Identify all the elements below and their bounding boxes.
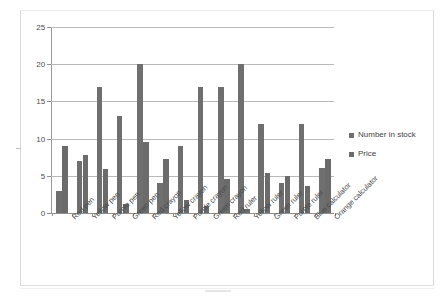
chart-legend: Number in stockPrice	[349, 131, 437, 169]
bar-group	[92, 27, 112, 213]
bar-group	[52, 27, 72, 213]
legend-item-label: Number in stock	[358, 131, 416, 139]
bar-price[interactable]	[62, 146, 68, 213]
bar-number-in-stock[interactable]	[258, 124, 264, 213]
chart-frame-bottom-tick	[205, 290, 231, 292]
bar-group	[315, 27, 335, 213]
y-axis-tick-mark	[47, 101, 51, 102]
y-axis-tick-label: 0	[41, 209, 45, 218]
bar-number-in-stock[interactable]	[97, 87, 103, 213]
bar-group	[274, 27, 294, 213]
y-axis-tick-label: 25	[36, 23, 45, 32]
y-axis-tick-mark	[47, 213, 51, 214]
y-axis-tick-label: 10	[36, 134, 45, 143]
chart-frame-top-rule	[20, 10, 434, 11]
bar-number-in-stock[interactable]	[56, 191, 62, 213]
x-axis-category-labels: Red penYellow penPurple penGreen penRed …	[51, 215, 341, 290]
bar-group	[295, 27, 315, 213]
y-axis-tick-mark	[47, 64, 51, 65]
bar-group	[153, 27, 173, 213]
chart-screenshot: 0510152025 Red penYellow penPurple penGr…	[0, 0, 441, 303]
legend-item[interactable]: Number in stock	[349, 131, 437, 139]
y-axis-tick-label: 20	[36, 60, 45, 69]
bar-series-container	[52, 27, 334, 213]
bar-group	[72, 27, 92, 213]
y-axis-tick-mark	[47, 139, 51, 140]
legend-swatch-icon	[349, 133, 354, 138]
y-axis-tick-mark	[47, 27, 51, 28]
legend-swatch-icon	[349, 152, 354, 157]
chart-frame-left-tick	[16, 148, 21, 149]
y-axis-tick-mark	[47, 176, 51, 177]
bar-group	[173, 27, 193, 213]
plot-area: 0510152025	[51, 27, 334, 213]
y-axis-tick-label: 15	[36, 97, 45, 106]
bar-group	[254, 27, 274, 213]
bar-number-in-stock[interactable]	[137, 64, 143, 213]
y-axis-tick-label: 5	[41, 171, 45, 180]
legend-item[interactable]: Price	[349, 150, 437, 158]
bar-group	[113, 27, 133, 213]
bar-group	[133, 27, 153, 213]
legend-item-label: Price	[358, 150, 376, 158]
